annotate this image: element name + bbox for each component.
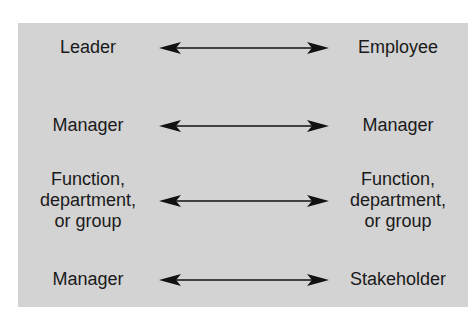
left-label: Manager bbox=[18, 115, 158, 136]
right-label: Function, department, or group bbox=[328, 169, 468, 232]
bidirectional-arrow-icon bbox=[159, 118, 329, 134]
left-label: Leader bbox=[18, 37, 158, 58]
diagram-panel: Leader Employee Manager Manager Function… bbox=[18, 23, 468, 307]
bidirectional-arrow-icon bbox=[159, 193, 329, 209]
right-label: Employee bbox=[328, 37, 468, 58]
bidirectional-arrow-icon bbox=[159, 40, 329, 56]
left-label: Manager bbox=[18, 269, 158, 290]
right-label: Stakeholder bbox=[328, 269, 468, 290]
bidirectional-arrow-icon bbox=[159, 272, 329, 288]
left-label: Function, department, or group bbox=[18, 169, 158, 232]
right-label: Manager bbox=[328, 115, 468, 136]
